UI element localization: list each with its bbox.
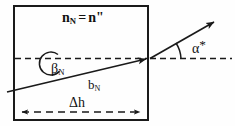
delta-h-label: Δh (69, 96, 85, 110)
medium-index-lead: n (62, 10, 70, 25)
refraction-diagram-figure: nN=n" βN bN Δh α* (0, 0, 235, 126)
diagram-canvas (0, 0, 235, 126)
beta-subscript: N (58, 67, 64, 77)
medium-index-right: n" (88, 10, 104, 25)
medium-index-subscript: N (70, 16, 76, 26)
alpha-angle-arc (176, 43, 181, 59)
ray-subscript: N (95, 84, 101, 93)
medium-index-label: nN=n" (62, 11, 104, 26)
alpha-star-superscript: * (199, 37, 206, 52)
internal-ray-b-N (7, 59, 146, 92)
alpha-angle-label: α* (192, 38, 206, 56)
medium-index-equals: = (78, 10, 86, 25)
beta-angle-label: βN (51, 62, 65, 77)
ray-b-label: bN (88, 78, 100, 93)
